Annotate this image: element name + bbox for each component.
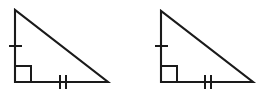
triangles-diagram (0, 0, 266, 97)
left-triangle-group (9, 10, 108, 89)
right-triangle-group (155, 11, 253, 89)
left-triangle-right-angle-icon (15, 66, 31, 82)
geometry-figure-canvas (0, 0, 266, 97)
right-triangle-outline (161, 11, 253, 82)
left-triangle-outline (15, 10, 108, 82)
right-triangle-right-angle-icon (161, 66, 177, 82)
